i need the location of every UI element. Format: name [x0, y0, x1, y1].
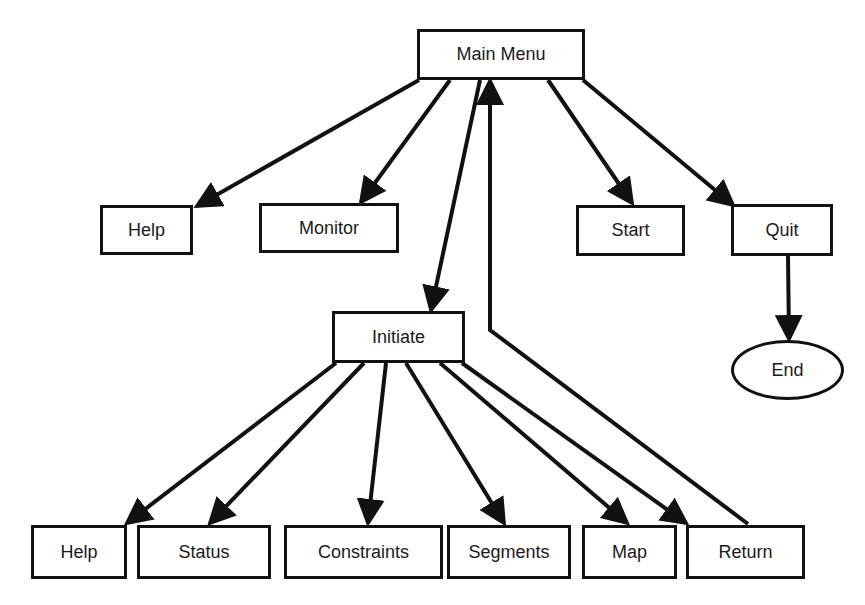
edge-main-menu-to-monitor — [361, 80, 450, 202]
node-constraints: Constraints — [284, 525, 443, 579]
edge-return-to-main-menu — [490, 81, 748, 524]
node-start: Start — [576, 205, 685, 256]
node-help-top: Help — [100, 205, 193, 255]
node-label: Main Menu — [456, 44, 545, 65]
edge-quit-to-end — [788, 256, 789, 339]
node-return: Return — [686, 525, 805, 579]
node-label: Initiate — [372, 327, 425, 348]
node-initiate: Initiate — [332, 311, 465, 363]
node-label: Status — [178, 542, 229, 563]
node-label: Help — [128, 220, 165, 241]
node-status: Status — [137, 525, 271, 579]
node-label: Help — [60, 542, 97, 563]
edge-main-menu-to-initiate — [431, 80, 480, 310]
menu-flowchart: Main MenuHelpMonitorStartQuitEndInitiate… — [0, 0, 865, 605]
node-end: End — [731, 340, 844, 400]
edge-main-menu-to-start — [548, 80, 632, 203]
edge-main-menu-to-quit — [583, 80, 733, 205]
edges-layer — [0, 0, 865, 605]
edge-main-menu-to-help-top — [197, 80, 419, 206]
node-label: Segments — [468, 542, 549, 563]
node-map: Map — [582, 525, 677, 579]
node-label: Map — [612, 542, 647, 563]
node-label: Quit — [765, 220, 798, 241]
edge-initiate-to-segments — [406, 363, 504, 523]
edge-initiate-to-return — [462, 363, 686, 523]
node-help-bottom: Help — [31, 525, 127, 579]
node-monitor: Monitor — [259, 203, 399, 253]
node-main-menu: Main Menu — [417, 29, 585, 80]
node-label: Start — [611, 220, 649, 241]
node-segments: Segments — [447, 525, 571, 579]
node-label: End — [771, 360, 803, 381]
node-label: Constraints — [318, 542, 409, 563]
node-label: Return — [718, 542, 772, 563]
node-quit: Quit — [731, 204, 833, 256]
edge-initiate-to-map — [440, 363, 627, 523]
node-label: Monitor — [299, 218, 359, 239]
edge-initiate-to-constraints — [368, 363, 386, 523]
